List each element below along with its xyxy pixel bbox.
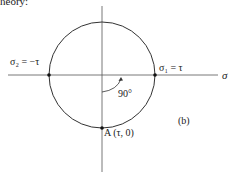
mohr-circle-diagram: [0, 0, 233, 177]
sigma2-label: σ₂ = −τ: [10, 57, 39, 67]
point-a-label: A (τ, 0): [104, 128, 134, 138]
sigma1-label: σ₁ = τ: [159, 63, 183, 73]
angle-label: 90°: [118, 89, 132, 99]
panel-label: (b): [178, 116, 190, 126]
point-sigma2: [47, 73, 51, 77]
point-sigma1: [153, 73, 157, 77]
arrowhead-icon: [119, 77, 124, 81]
sigma-axis-label: σ: [222, 70, 227, 80]
